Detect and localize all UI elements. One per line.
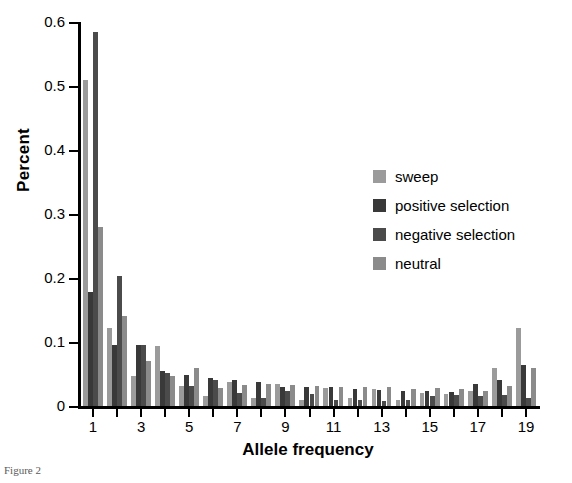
bar — [507, 386, 512, 406]
bar — [136, 345, 141, 406]
x-axis-title: Allele frequency — [78, 440, 538, 460]
x-axis-tick — [333, 408, 335, 417]
bar — [107, 328, 112, 406]
bar — [406, 400, 411, 406]
bar — [401, 391, 406, 406]
bar — [497, 380, 502, 406]
x-axis-tick-label: 13 — [373, 418, 390, 435]
bar — [339, 387, 344, 406]
bar — [227, 382, 232, 406]
bar — [377, 390, 382, 406]
bar — [329, 387, 334, 406]
bar — [387, 387, 392, 406]
bar — [88, 292, 93, 406]
x-axis-tick — [477, 408, 479, 417]
bar — [261, 398, 266, 406]
bar — [411, 389, 416, 406]
bar — [521, 365, 526, 406]
y-axis-tick: 0 — [69, 406, 78, 408]
bar — [483, 391, 488, 406]
x-axis-tick — [501, 408, 503, 417]
bar — [266, 384, 271, 406]
y-axis-tick: 0.2 — [69, 278, 78, 280]
y-axis-tick: 0.5 — [69, 86, 78, 88]
x-axis-tick — [116, 408, 118, 417]
bar — [459, 389, 464, 406]
x-axis-tick-label: 15 — [421, 418, 438, 435]
y-axis-tick-label: 0 — [57, 397, 65, 414]
bar — [280, 387, 285, 406]
bar — [194, 368, 199, 406]
bar — [420, 393, 425, 406]
bar — [208, 378, 213, 406]
figure-2: Percent 00.10.20.30.40.50.6 135791113151… — [0, 0, 572, 483]
bar — [348, 398, 353, 406]
legend: sweeppositive selectionnegative selectio… — [373, 162, 515, 278]
bar — [382, 401, 387, 406]
legend-swatch — [373, 228, 386, 241]
bar — [131, 376, 136, 406]
y-axis-tick: 0.4 — [69, 150, 78, 152]
bar — [516, 328, 521, 406]
bar — [179, 386, 184, 406]
legend-item: positive selection — [373, 191, 515, 220]
bar — [256, 382, 261, 406]
bar — [146, 361, 151, 406]
bar — [478, 396, 483, 406]
y-axis-tick-label: 0.5 — [44, 77, 65, 94]
bar — [531, 368, 536, 406]
x-axis-tick — [260, 408, 262, 417]
bar — [218, 388, 223, 406]
bar — [492, 368, 497, 406]
bar — [184, 375, 189, 406]
legend-item: neutral — [373, 249, 515, 278]
bar — [468, 391, 473, 406]
bar — [396, 400, 401, 406]
bar — [155, 346, 160, 406]
bar — [372, 389, 377, 406]
bar — [334, 400, 339, 406]
bar — [170, 376, 175, 406]
y-axis-tick-label: 0.6 — [44, 13, 65, 30]
x-axis-tick-label: 9 — [281, 418, 289, 435]
legend-label: neutral — [395, 255, 441, 272]
bar — [232, 380, 237, 406]
y-axis-title: Percent — [14, 100, 34, 220]
bar — [425, 391, 430, 406]
bar — [502, 395, 507, 406]
bar — [310, 394, 315, 406]
x-axis-tick-label: 5 — [185, 418, 193, 435]
y-axis-tick: 0.6 — [69, 22, 78, 24]
bar — [304, 387, 309, 406]
bar — [473, 384, 478, 406]
y-axis-tick-label: 0.3 — [44, 205, 65, 222]
bar — [430, 396, 435, 406]
bar — [112, 345, 117, 406]
bar — [189, 386, 194, 406]
x-axis-tick — [164, 408, 166, 417]
bar — [251, 398, 256, 406]
bar — [122, 316, 127, 406]
y-axis-tick-label: 0.2 — [44, 269, 65, 286]
bar — [203, 396, 208, 406]
bar — [290, 385, 295, 406]
bar — [275, 384, 280, 406]
bar — [160, 371, 165, 406]
bar — [323, 388, 328, 406]
bar — [435, 388, 440, 406]
bar — [93, 32, 98, 406]
x-axis-tick-label: 19 — [518, 418, 535, 435]
y-axis-tick-label: 0.4 — [44, 141, 65, 158]
legend-label: sweep — [395, 168, 438, 185]
x-axis-tick — [405, 408, 407, 417]
x-axis-tick — [381, 408, 383, 417]
y-axis-tick-label: 0.1 — [44, 333, 65, 350]
legend-item: negative selection — [373, 220, 515, 249]
bar — [285, 391, 290, 406]
x-axis-tick-label: 7 — [233, 418, 241, 435]
legend-item: sweep — [373, 162, 515, 191]
x-axis-tick — [236, 408, 238, 417]
figure-caption: Figure 2 — [4, 464, 41, 476]
x-axis-tick — [357, 408, 359, 417]
x-axis-tick — [429, 408, 431, 417]
